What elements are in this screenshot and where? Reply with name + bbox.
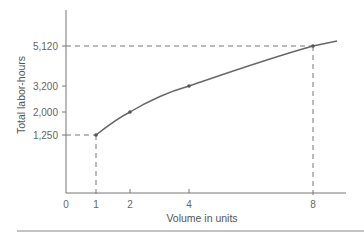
x-ticks — [130, 189, 189, 193]
data-point-4 — [187, 84, 191, 88]
x-tick-label: 8 — [310, 199, 316, 210]
data-point-2 — [128, 110, 132, 114]
y-tick-label: 1,250 — [33, 130, 58, 141]
x-tick-label: 1 — [93, 199, 99, 210]
x-tick-label: 0 — [63, 199, 69, 210]
data-point-8 — [311, 44, 315, 48]
learning-curve-line — [96, 41, 337, 135]
x-axis-title: Volume in units — [166, 212, 237, 224]
y-tick-label: 5,120 — [33, 41, 58, 52]
data-point-1 — [94, 133, 98, 137]
y-axis-title: Total labor-hours — [15, 56, 27, 134]
y-tick-label: 3,200 — [33, 81, 58, 92]
reference-lines — [66, 46, 313, 197]
x-tick-label: 4 — [186, 199, 192, 210]
x-tick-label: 2 — [127, 199, 133, 210]
y-ticks — [62, 46, 66, 135]
y-tick-label: 2,000 — [33, 107, 58, 118]
data-points — [94, 44, 315, 137]
learning-curve-chart: 5,120 3,200 2,000 1,250 0 1 2 4 8 Volume… — [0, 0, 364, 241]
